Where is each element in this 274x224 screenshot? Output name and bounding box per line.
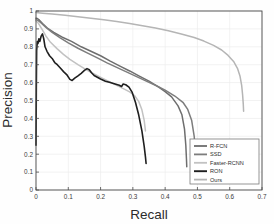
- y-axis-label: Precision: [0, 72, 15, 128]
- y-tick-label: 0.7: [24, 61, 33, 68]
- legend-label-r-fcn[interactable]: R-FCN: [210, 143, 227, 149]
- x-tick-label: 0.4: [161, 193, 170, 200]
- y-tick-label: 0.1: [24, 168, 33, 175]
- x-tick-label: 0.3: [128, 193, 137, 200]
- y-tick-label: 0: [29, 186, 33, 193]
- x-tick-label: 0.1: [64, 193, 73, 200]
- y-tick-label: 0.5: [24, 97, 33, 104]
- y-tick-label: 0.6: [24, 79, 33, 86]
- x-tick-label: 0.6: [225, 193, 234, 200]
- y-tick-label: 0.9: [24, 25, 33, 32]
- legend[interactable]: R-FCNSSDFaster-RCNNRONOurs: [190, 139, 259, 184]
- legend-label-ssd[interactable]: SSD: [210, 151, 222, 157]
- x-tick-label: 0.7: [258, 193, 267, 200]
- y-tick-label: 0.8: [24, 43, 33, 50]
- y-tick-label: 0.3: [24, 133, 33, 140]
- precision-recall-chart: 00.10.20.30.40.50.60.7 00.10.20.30.40.50…: [0, 0, 274, 224]
- legend-label-faster-rcnn[interactable]: Faster-RCNN: [210, 160, 244, 166]
- x-tick-label: 0.5: [193, 193, 202, 200]
- figure-canvas: 00.10.20.30.40.50.60.7 00.10.20.30.40.50…: [0, 0, 274, 224]
- x-axis-label: Recall: [130, 207, 168, 222]
- y-tick-label: 0.2: [24, 151, 33, 158]
- legend-label-ours[interactable]: Ours: [210, 177, 222, 183]
- legend-label-ron[interactable]: RON: [210, 168, 222, 174]
- y-tick-label: 0.4: [24, 115, 33, 122]
- x-tick-label: 0: [34, 193, 38, 200]
- x-tick-label: 0.2: [96, 193, 105, 200]
- y-tick-label: 1: [29, 7, 33, 14]
